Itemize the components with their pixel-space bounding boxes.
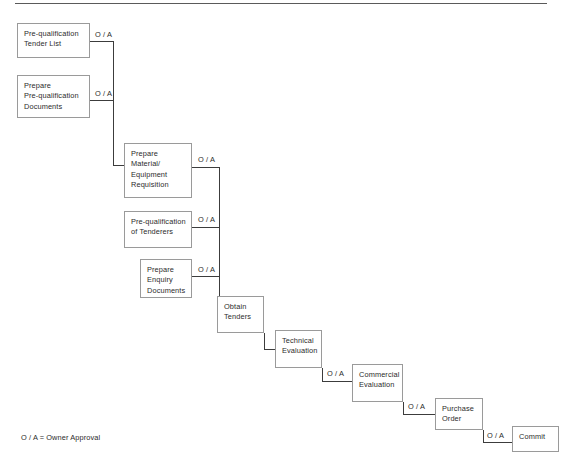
approval-label-oa-tender-list: O / A	[95, 30, 112, 39]
process-node-commit[interactable]: Commit	[512, 426, 559, 452]
process-node-prepare-pre-qualification-documents[interactable]: PreparePre-qualificationDocuments	[17, 75, 90, 118]
diagram-canvas: Pre-qualificationTender ListPreparePre-q…	[0, 0, 562, 465]
node-label-line: of Tenderers	[131, 227, 191, 237]
node-label-line: Evaluation	[359, 380, 402, 390]
approval-label-oa-enquiry-docs: O / A	[198, 265, 215, 274]
node-label-line: Pre-qualification	[131, 217, 191, 227]
node-label-line: Prepare	[131, 149, 191, 159]
node-label-line: Pre-qualification	[24, 29, 89, 39]
approval-label-oa-commercial-eval: O / A	[408, 402, 425, 411]
node-label-line: Prepare	[147, 265, 191, 275]
node-label-line: Obtain	[224, 302, 263, 312]
process-node-commercial-evaluation[interactable]: CommercialEvaluation	[352, 364, 403, 402]
header-divider-rule	[15, 3, 547, 4]
node-label-line: Commercial	[359, 370, 402, 380]
node-label-line: Purchase	[442, 404, 482, 414]
approval-label-oa-technical-eval: O / A	[327, 369, 344, 378]
process-node-obtain-tenders[interactable]: ObtainTenders	[217, 296, 264, 333]
approval-label-oa-tenderers: O / A	[198, 215, 215, 224]
node-label-line: Equipment	[131, 170, 191, 180]
process-node-pre-qualification-of-tenderers[interactable]: Pre-qualificationof Tenderers	[124, 211, 192, 248]
node-label-line: Enquiry	[147, 275, 191, 285]
node-label-line: Evaluation	[282, 346, 321, 356]
node-label-line: Commit	[519, 432, 558, 442]
node-label-line: Prepare	[24, 81, 89, 91]
approval-label-oa-requisition: O / A	[198, 155, 215, 164]
node-label-line: Technical	[282, 336, 321, 346]
node-label-line: Requisition	[131, 180, 191, 190]
legend-text: O / A = Owner Approval	[21, 433, 100, 443]
process-node-technical-evaluation[interactable]: TechnicalEvaluation	[275, 330, 322, 368]
node-label-line: Documents	[147, 286, 191, 296]
node-label-line: Tenders	[224, 312, 263, 322]
node-label-line: Pre-qualification	[24, 91, 89, 101]
connector-requisition-to-trunk-b	[192, 167, 219, 297]
approval-label-oa-purchase-order: O / A	[487, 431, 504, 440]
process-node-prepare-material-equipment-requisition[interactable]: PrepareMaterial/EquipmentRequisition	[124, 143, 192, 198]
process-node-pre-qualification-tender-list[interactable]: Pre-qualificationTender List	[17, 23, 90, 58]
node-label-line: Documents	[24, 102, 89, 112]
node-label-line: Order	[442, 414, 482, 424]
approval-label-oa-prequal-docs: O / A	[95, 89, 112, 98]
connector-tender-list-to-trunk-a	[90, 41, 124, 165]
process-node-prepare-enquiry-documents[interactable]: PrepareEnquiryDocuments	[140, 259, 192, 298]
connector-layer	[0, 0, 562, 465]
process-node-purchase-order[interactable]: PurchaseOrder	[435, 398, 483, 430]
node-label-line: Material/	[131, 159, 191, 169]
node-label-line: Tender List	[24, 39, 89, 49]
